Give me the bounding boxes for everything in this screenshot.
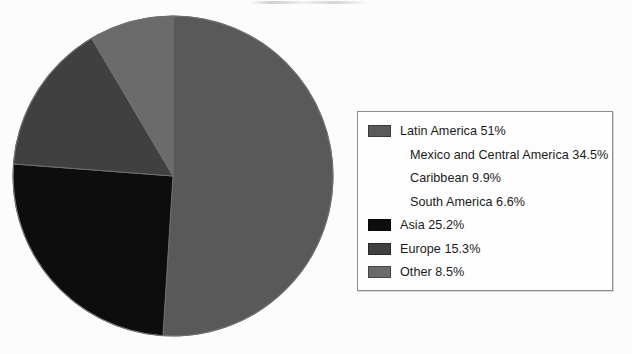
legend-item[interactable]: Caribbean 9.9%	[358, 167, 501, 189]
legend-item[interactable]: Latin America 51%	[358, 120, 506, 142]
legend-swatch	[368, 243, 391, 255]
legend-item[interactable]: Other 8.5%	[358, 261, 464, 283]
legend-item-label: Other 8.5%	[400, 265, 464, 279]
legend-item-label: Mexico and Central America 34.5%	[410, 148, 608, 162]
chart-legend: Latin America 51%Mexico and Central Amer…	[357, 111, 613, 291]
legend-item[interactable]: Asia 25.2%	[358, 214, 464, 236]
legend-item-label: Europe 15.3%	[400, 242, 480, 256]
legend-swatch	[368, 266, 391, 278]
legend-item[interactable]: Europe 15.3%	[358, 238, 480, 260]
legend-item-label: South America 6.6%	[410, 195, 525, 209]
pie-svg	[0, 0, 350, 354]
legend-item-label: Asia 25.2%	[400, 218, 464, 232]
pie-chart	[0, 0, 350, 354]
legend-item-label: Latin America 51%	[400, 124, 506, 138]
pie-slice-asia[interactable]	[13, 164, 173, 336]
legend-swatch	[368, 219, 391, 231]
legend-swatch	[368, 125, 391, 137]
pie-slice-latin-america[interactable]	[163, 16, 333, 336]
legend-item[interactable]: Mexico and Central America 34.5%	[358, 144, 608, 166]
legend-item[interactable]: South America 6.6%	[358, 191, 525, 213]
legend-item-label: Caribbean 9.9%	[410, 171, 501, 185]
